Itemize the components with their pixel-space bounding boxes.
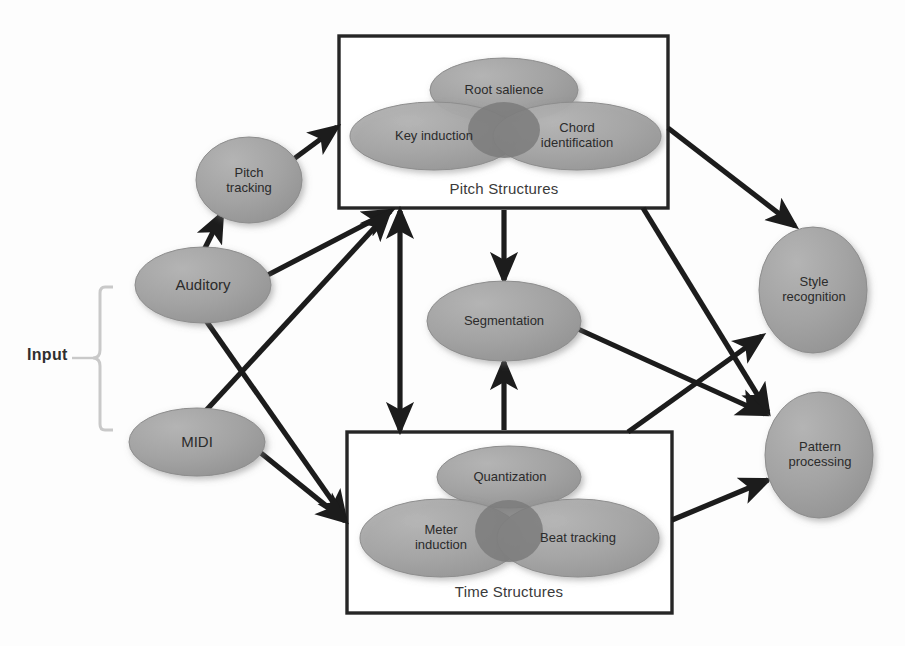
edge-pitch-structures-to-pattern-processing[interactable] bbox=[643, 208, 768, 412]
diagram-graphics bbox=[0, 0, 905, 646]
input-label: Input bbox=[27, 346, 68, 364]
ellipse-pattern-processing[interactable] bbox=[765, 392, 873, 518]
ellipse-style-recognition[interactable] bbox=[759, 227, 867, 353]
input-brace bbox=[93, 287, 113, 430]
ellipse-midi[interactable] bbox=[129, 408, 265, 476]
pitch-structures-caption: Pitch Structures bbox=[404, 180, 604, 197]
edge-pitch-structures-to-style-recognition[interactable] bbox=[668, 128, 795, 226]
edge-auditory-to-pitch-structures[interactable] bbox=[262, 211, 391, 278]
ellipse-pitch-overlap bbox=[468, 102, 540, 158]
time-structures-caption: Time Structures bbox=[409, 583, 609, 600]
ellipse-pitch-tracking[interactable] bbox=[196, 137, 302, 223]
edge-pitch-tracking-to-pitch-structures[interactable] bbox=[291, 127, 337, 161]
diagram-canvas: Input Pitch tracking Auditory MIDI Segme… bbox=[0, 0, 905, 646]
ellipse-segmentation[interactable] bbox=[427, 281, 581, 361]
ellipse-auditory[interactable] bbox=[135, 247, 271, 323]
ellipse-time-overlap bbox=[475, 500, 543, 562]
edge-time-structures-to-pattern-processing[interactable] bbox=[672, 480, 768, 520]
ellipse-quantization[interactable] bbox=[437, 446, 581, 508]
